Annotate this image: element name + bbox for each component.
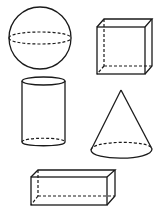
cone-shape: Cone [91,90,152,158]
cylinder-shape: Cylinder [22,77,65,146]
cuboid-shape: Rectangular Prism [31,170,115,205]
sphere-shape: Sphere [9,7,71,69]
cube-shape: Cube [97,19,152,74]
geometric-solids-figure: Sphere Cube Cylinder Cone Rectangular P [0,0,167,213]
